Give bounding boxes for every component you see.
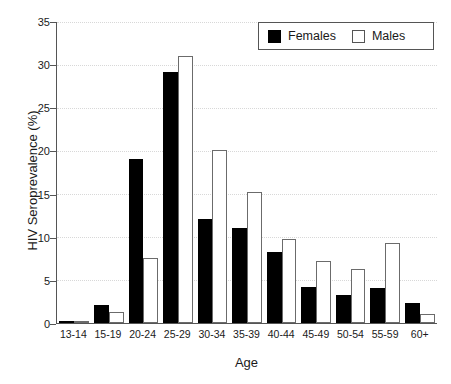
bar-males-13-14: [74, 321, 89, 323]
y-tick-label: 30: [14, 59, 50, 71]
y-tick-label: 35: [14, 16, 50, 28]
plot-area: [56, 22, 437, 324]
bar-males-35-39: [247, 192, 262, 323]
legend-swatch-males-icon: [352, 30, 365, 43]
bar-group: [230, 22, 265, 323]
legend-label-males: Males: [372, 29, 405, 43]
bar-group: [57, 22, 92, 323]
y-tick-label: 20: [14, 145, 50, 157]
bar-females-15-19: [94, 305, 109, 323]
x-tick-label: 25-29: [160, 328, 195, 346]
bar-group: [126, 22, 161, 323]
x-tick-label: 45-49: [298, 328, 333, 346]
y-tick-label: 0: [14, 318, 50, 330]
x-tick-label: 20-24: [125, 328, 160, 346]
y-tick-label: 5: [14, 275, 50, 287]
x-tick-label: 35-39: [229, 328, 264, 346]
bar-group: [92, 22, 127, 323]
x-axis-title: Age: [56, 355, 437, 370]
bar-group: [402, 22, 437, 323]
bar-males-20-24: [143, 258, 158, 323]
bar-males-25-29: [178, 56, 193, 323]
bar-group: [299, 22, 334, 323]
bar-females-30-34: [198, 219, 213, 323]
bar-females-20-24: [129, 159, 144, 323]
x-axis-tick-labels: 13-1415-1920-2425-2930-3435-3940-4445-49…: [56, 328, 437, 346]
bar-group: [368, 22, 403, 323]
legend-swatch-females-icon: [268, 30, 281, 43]
bar-males-60+: [420, 314, 435, 323]
bar-females-35-39: [232, 228, 247, 323]
x-tick-label: 30-34: [195, 328, 230, 346]
hiv-seroprevalence-bar-chart: HIV Seroprevalence (%) 05101520253035 13…: [0, 0, 451, 384]
bar-females-40-44: [267, 252, 282, 323]
bar-females-45-49: [301, 287, 316, 323]
bar-females-13-14: [59, 321, 74, 323]
legend-label-females: Females: [288, 29, 336, 43]
bar-males-40-44: [282, 239, 297, 323]
bar-females-50-54: [336, 295, 351, 323]
x-tick-label: 55-59: [368, 328, 403, 346]
x-tick-label: 13-14: [56, 328, 91, 346]
legend-entry-males: Males: [352, 29, 405, 43]
bar-males-15-19: [109, 312, 124, 323]
bar-males-30-34: [212, 150, 227, 323]
bar-group: [264, 22, 299, 323]
bar-group: [161, 22, 196, 323]
y-tick-label: 15: [14, 189, 50, 201]
x-tick-label: 60+: [402, 328, 437, 346]
y-tick-mark: [50, 324, 56, 325]
bar-females-25-29: [163, 72, 178, 323]
bar-females-60+: [405, 303, 420, 323]
bars-layer: [57, 22, 437, 323]
x-tick-label: 50-54: [333, 328, 368, 346]
legend: Females Males: [258, 22, 434, 50]
x-tick-label: 15-19: [91, 328, 126, 346]
bar-group: [195, 22, 230, 323]
bar-group: [333, 22, 368, 323]
bar-males-50-54: [351, 269, 366, 323]
bar-males-45-49: [316, 261, 331, 323]
y-tick-label: 25: [14, 102, 50, 114]
y-tick-label: 10: [14, 232, 50, 244]
legend-entry-females: Females: [268, 29, 336, 43]
bar-females-55-59: [370, 288, 385, 323]
bar-males-55-59: [385, 243, 400, 323]
x-tick-label: 40-44: [264, 328, 299, 346]
